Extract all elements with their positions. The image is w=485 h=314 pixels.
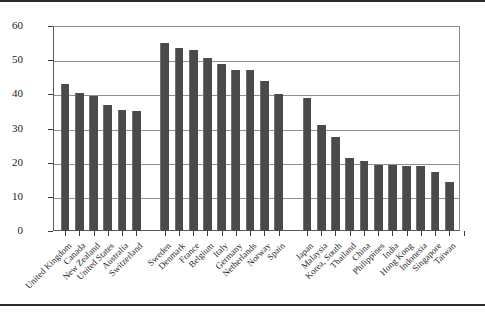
bar [61,84,70,231]
bar [402,166,411,231]
bar [360,161,369,231]
bar [374,165,383,231]
x-tick-mark [364,231,365,236]
y-tick-label: 20 [12,157,23,168]
x-tick-label: Hong Kong [379,241,415,277]
x-tick-mark [65,231,66,236]
x-tick-label: Italy [212,241,230,259]
x-tick-label: Indonesia [398,241,429,272]
bar [231,70,240,231]
x-tick-label: Singapore [411,241,443,273]
y-tick-label: 40 [12,88,23,99]
x-tick-label: Japan [294,241,315,262]
y-tick-label: 30 [12,123,23,134]
x-tick-mark [392,231,393,236]
x-tick-mark [264,231,265,236]
x-tick-mark [335,231,336,236]
bar [246,70,255,231]
x-tick-label: Switzerland [108,241,145,278]
x-tick-label: India [381,241,400,260]
page-top-rule [0,0,485,2]
x-tick-label: Canada [62,241,87,266]
x-tick-label: Norway [246,241,273,268]
x-tick-label: Belgium [187,241,215,269]
y-tick-label: 60 [12,20,23,31]
bar [75,93,84,231]
x-tick-label: Malaysia [300,241,330,271]
x-tick-mark [165,231,166,236]
x-tick-mark [122,231,123,236]
bar [189,50,198,231]
x-tick-label: Denmark [157,241,187,271]
x-tick-mark [407,231,408,236]
x-tick-mark [250,231,251,236]
bars-group [53,26,460,231]
x-tick-mark [79,231,80,236]
x-tick-mark [321,231,322,236]
x-tick-mark [464,231,465,236]
x-tick-mark [179,231,180,236]
bar [445,182,454,231]
x-tick-label: United Kingdom [24,241,73,290]
bar [217,64,226,231]
bar-chart-figure: 0102030405060 United KingdomCanadaNew Ze… [0,0,485,314]
x-tick-label: Spain [266,241,287,262]
x-tick-label: New Zealand [61,241,101,281]
x-tick-mark [207,231,208,236]
bar [103,105,112,231]
x-tick-mark [449,231,450,236]
x-tick-mark [236,231,237,236]
x-tick-mark [136,231,137,236]
x-tick-mark [94,231,95,236]
bar [175,48,184,231]
x-tick-mark [307,231,308,236]
x-tick-label: Netherlands [221,241,258,278]
x-tick-label: China [351,241,373,263]
bar [260,81,269,231]
bar [203,58,212,231]
x-tick-label: France [178,241,202,265]
bar [160,43,169,231]
bar [317,125,326,231]
bar [431,172,440,231]
y-tick-label: 50 [12,54,23,65]
x-tick-label: Australia [101,241,131,271]
bar [132,111,141,231]
bar [345,158,354,231]
x-tick-label: Taiwan [433,241,458,266]
x-tick-label: Philippines [351,241,386,276]
bar [118,110,127,231]
x-tick-mark [279,231,280,236]
x-tick-label: United States [75,241,115,281]
x-tick-mark [350,231,351,236]
bar [274,94,283,231]
x-tick-label: Germany [214,241,244,271]
bar [303,98,312,231]
x-tick-mark [435,231,436,236]
bar [388,165,397,231]
bar [416,166,425,231]
bar [331,137,340,231]
y-tick-label: 0 [18,225,24,236]
x-tick-mark [108,231,109,236]
x-tick-label: Thailand [329,241,358,270]
y-tick-label: 10 [12,191,23,202]
x-tick-mark [193,231,194,236]
page-bottom-rule [0,304,485,306]
x-tick-label: Korea, South [304,241,344,281]
x-tick-mark [421,231,422,236]
x-axis-ticks [53,231,460,237]
x-tick-mark [222,231,223,236]
x-tick-mark [378,231,379,236]
bar [89,96,98,231]
x-tick-label: Sweden [146,241,173,268]
